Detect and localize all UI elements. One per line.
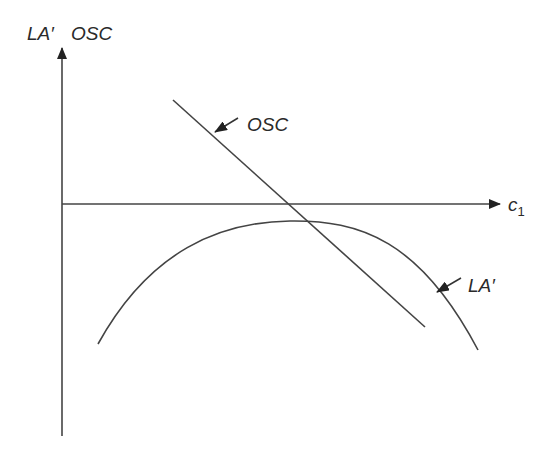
y-axis-label-la-prime: LA′ [27, 23, 55, 44]
y-axis-label-osc: OSC [71, 23, 112, 44]
la-prime-curve [98, 221, 478, 350]
x-axis-label-main: c [508, 194, 518, 215]
osc-curve-label: OSC [247, 114, 288, 135]
la-prime-curve-label: LA′ [468, 275, 496, 296]
osc-pointer-arrow-icon [215, 118, 238, 132]
osc-line [173, 100, 425, 327]
x-axis-label: c1 [508, 194, 525, 219]
diagram-canvas: LA′ OSC c1 OSC LA′ [0, 0, 555, 451]
la-prime-pointer-arrow-icon [437, 278, 461, 292]
x-axis-label-subscript: 1 [518, 204, 525, 219]
